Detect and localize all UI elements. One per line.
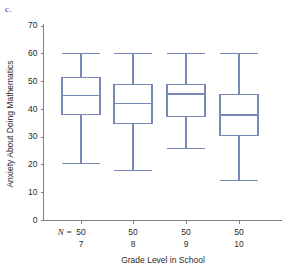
figure-root: c. 010203040506070 5075085095010 N = Gra…	[0, 0, 290, 270]
box-plot-item	[167, 54, 205, 148]
n-value-label: 50	[128, 227, 138, 237]
y-tick-label: 0	[33, 215, 38, 225]
y-tick-label: 30	[28, 131, 38, 141]
n-value-label: 50	[234, 227, 244, 237]
y-tick-label: 70	[28, 20, 38, 30]
box-series	[62, 54, 258, 180]
grade-level-label: 10	[234, 239, 244, 249]
n-value-label: 50	[76, 227, 86, 237]
y-axis-ticks: 010203040506070	[28, 20, 43, 225]
box-plot-item	[114, 54, 152, 171]
box-plot-item	[220, 54, 258, 180]
iqr-box	[167, 84, 205, 116]
n-value-label: 50	[181, 227, 191, 237]
iqr-box	[62, 77, 100, 115]
y-tick-label: 40	[28, 104, 38, 114]
box-plot-item	[62, 54, 100, 164]
y-tick-label: 10	[28, 187, 38, 197]
y-axis-title: Anxiety About Doing Mathematics	[5, 60, 15, 187]
box-plot-chart: 010203040506070 5075085095010 N = Grade …	[0, 0, 290, 270]
x-axis-labels: 5075085095010	[76, 227, 244, 249]
y-tick-label: 60	[28, 48, 38, 58]
x-axis-title: Grade Level in School	[121, 255, 205, 265]
grade-level-label: 9	[184, 239, 189, 249]
y-tick-label: 50	[28, 76, 38, 86]
n-equals-label: N =	[57, 227, 72, 237]
y-tick-label: 20	[28, 159, 38, 169]
grade-level-label: 7	[79, 239, 84, 249]
grade-level-label: 8	[131, 239, 136, 249]
